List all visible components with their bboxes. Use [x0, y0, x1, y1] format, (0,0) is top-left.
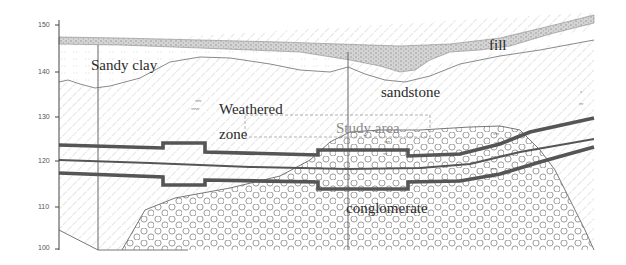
- sandstone-label: sandstone: [381, 84, 441, 100]
- weathering-symbol: ᵛᵛᵛᵛ: [191, 106, 200, 114]
- y-tick-140: 140: [38, 68, 50, 75]
- y-tick-130: 130: [38, 113, 50, 120]
- y-tick-110: 110: [38, 203, 49, 210]
- weathering-symbol: ᵛᵛᵛ: [384, 139, 391, 147]
- weathering-symbol: ᵛᵛᵛ: [490, 166, 497, 174]
- fill-label: fill: [489, 37, 507, 53]
- conglomerate-label: conglomerate: [346, 200, 428, 216]
- weathering-symbol: ᵛᵛᵛ: [195, 98, 202, 106]
- weathering-symbol: ᵛᵛᵛᵛ: [494, 140, 503, 148]
- geological-cross-section: 150 140 130 120 110 100 ᵛᵛᵛ ᵛᵛᵛᵛ ᵛᵛᵛ ᵛᵛ …: [0, 0, 626, 265]
- sandy-clay-label: Sandy clay: [91, 57, 158, 73]
- weathered-zone-label-line1: Weathered: [219, 101, 283, 117]
- y-tick-150: 150: [38, 21, 50, 28]
- y-tick-100: 100: [38, 244, 50, 251]
- weathering-symbol: ᵛᵛᵛᵛ: [488, 174, 497, 182]
- weathered-zone-label-line2: zone: [219, 126, 248, 142]
- y-axis: 150 140 130 120 110 100: [38, 20, 59, 251]
- weathering-symbol: ᵛᵛᵛ: [493, 131, 500, 139]
- y-tick-120: 120: [38, 157, 50, 164]
- study-area-label: Study area: [336, 120, 400, 136]
